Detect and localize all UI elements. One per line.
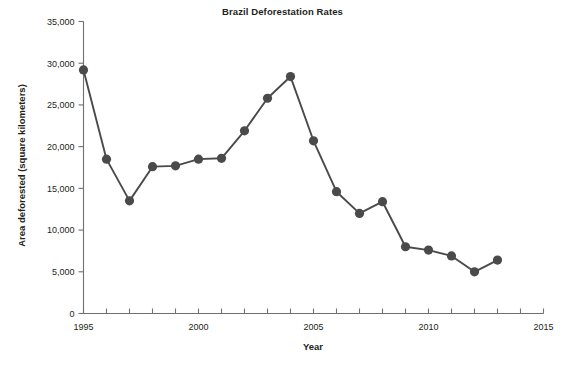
data-point bbox=[447, 251, 456, 260]
data-point bbox=[102, 155, 111, 164]
y-tick-label: 25,000 bbox=[47, 100, 75, 110]
data-point bbox=[263, 94, 272, 103]
y-tick-label: 20,000 bbox=[47, 142, 75, 152]
plot-area: 05,00010,00015,00020,00025,00030,00035,0… bbox=[0, 0, 565, 366]
data-point bbox=[194, 155, 203, 164]
data-point bbox=[79, 65, 88, 74]
y-tick-label: 10,000 bbox=[47, 225, 75, 235]
data-point bbox=[240, 126, 249, 135]
data-point bbox=[332, 187, 341, 196]
x-tick-label: 2015 bbox=[533, 322, 553, 332]
x-tick-label: 1995 bbox=[73, 322, 93, 332]
data-point bbox=[286, 72, 295, 81]
y-axis: 05,00010,00015,00020,00025,00030,00035,0… bbox=[47, 17, 84, 319]
y-tick-label: 15,000 bbox=[47, 184, 75, 194]
x-axis: 19952000200520102015 bbox=[73, 309, 553, 332]
y-tick-label: 5,000 bbox=[52, 267, 75, 277]
x-tick-label: 2005 bbox=[303, 322, 323, 332]
data-point bbox=[493, 256, 502, 265]
data-point bbox=[217, 154, 226, 163]
data-point bbox=[125, 196, 134, 205]
data-point bbox=[401, 242, 410, 251]
x-tick-label: 2000 bbox=[188, 322, 208, 332]
y-tick-label: 35,000 bbox=[47, 17, 75, 27]
chart-container: Brazil Deforestation Rates Area deforest… bbox=[0, 0, 565, 366]
y-tick-label: 0 bbox=[69, 309, 74, 319]
data-series-line bbox=[84, 70, 498, 272]
data-point bbox=[470, 267, 479, 276]
data-point bbox=[148, 162, 157, 171]
x-tick-label: 2010 bbox=[418, 322, 438, 332]
data-point bbox=[309, 136, 318, 145]
data-point bbox=[424, 245, 433, 254]
data-point bbox=[355, 209, 364, 218]
y-tick-label: 30,000 bbox=[47, 59, 75, 69]
data-point bbox=[378, 197, 387, 206]
data-point-markers bbox=[79, 65, 502, 276]
data-point bbox=[171, 161, 180, 170]
